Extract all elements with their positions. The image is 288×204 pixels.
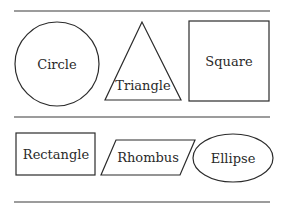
ellipse-shape: Ellipse <box>193 134 273 182</box>
square-label: Square <box>205 54 253 69</box>
shapes-diagram: Circle Triangle Square Rectangle Rhombus… <box>0 0 288 204</box>
triangle-shape: Triangle <box>105 22 181 100</box>
rectangle-label: Rectangle <box>23 147 90 162</box>
square-shape: Square <box>189 21 269 101</box>
rectangle-shape: Rectangle <box>16 133 95 175</box>
circle-shape: Circle <box>15 22 99 106</box>
rhombus-shape: Rhombus <box>101 140 195 175</box>
triangle-label: Triangle <box>115 78 171 93</box>
ellipse-label: Ellipse <box>211 151 256 166</box>
circle-label: Circle <box>37 57 77 72</box>
rhombus-label: Rhombus <box>117 150 179 165</box>
